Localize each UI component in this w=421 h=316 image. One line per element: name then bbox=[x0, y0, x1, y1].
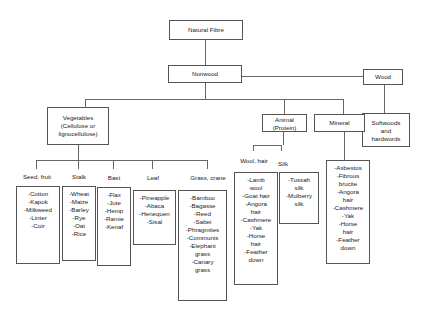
connector-to-seed bbox=[36, 160, 37, 169]
node-nonwood: Nonwood bbox=[168, 65, 242, 83]
connector-vegetables-branch bbox=[36, 160, 208, 161]
list-bast: -Flax -Jute -Hemp -Ramie -Kenaf bbox=[97, 187, 131, 266]
node-mineral: Mineral bbox=[314, 114, 365, 132]
node-nonwood-label: Nonwood bbox=[192, 70, 218, 78]
connector-mineral-down bbox=[344, 132, 345, 160]
list-item: -Pineapple bbox=[134, 194, 175, 202]
list-item: -Bamboo bbox=[179, 194, 226, 202]
connector-nonwood-down bbox=[205, 83, 206, 99]
connector-to-vegetables bbox=[85, 99, 86, 107]
list-seed-fruit: -Cotton -Kapok -Milkweed -Linter -Coir bbox=[16, 186, 60, 264]
list-item: -Milkweed bbox=[17, 206, 59, 214]
softwoods-line: hardwords bbox=[363, 135, 409, 143]
list-item: -Phragmites bbox=[179, 226, 226, 234]
list-item: -Feather bbox=[327, 236, 369, 244]
animal-line: (Protein) bbox=[263, 124, 306, 132]
label-wool-hair: Wool, hair bbox=[234, 157, 274, 165]
list-item: -Ramie bbox=[98, 215, 130, 223]
node-mineral-label: Mineral bbox=[329, 119, 349, 127]
list-item: -Oat bbox=[63, 222, 95, 230]
list-leaf: -Pineapple -Abaca -Henequen -Sisal bbox=[133, 190, 176, 245]
label-grass-crane: Grass, crane bbox=[182, 174, 234, 182]
list-item: -Tussah bbox=[280, 176, 318, 184]
list-item: -Yak bbox=[235, 224, 277, 232]
animal-line: Animal bbox=[263, 116, 306, 124]
list-stalk: -Wheat -Maize -Barley -Rye -Oat -Rice bbox=[62, 186, 96, 261]
list-item: -Rice bbox=[63, 230, 95, 238]
list-mineral: -Asbestos -Fibrous brucite -Angora hair … bbox=[326, 160, 370, 264]
label-stalk: Stalk bbox=[62, 173, 96, 181]
softwoods-line: and bbox=[363, 127, 409, 135]
list-item: -Angora bbox=[235, 200, 277, 208]
connector-to-grass bbox=[207, 160, 208, 169]
list-item: hair bbox=[235, 240, 277, 248]
list-item: grass bbox=[179, 250, 226, 258]
list-item: -Lamb bbox=[235, 176, 277, 184]
list-item: down bbox=[327, 244, 369, 252]
list-item: -Canary bbox=[179, 258, 226, 266]
node-wood-label: Wood bbox=[375, 73, 391, 81]
connector-nonwood-wood bbox=[242, 76, 363, 77]
label-silk: Silk bbox=[276, 160, 290, 168]
list-item: brucite bbox=[327, 180, 369, 188]
list-item: -Kapok bbox=[17, 198, 59, 206]
node-vegetables: Vegetables (Cellulose or lignocellulose) bbox=[47, 107, 109, 145]
list-item: -Cashmere bbox=[235, 216, 277, 224]
list-item: -Henequen bbox=[134, 210, 175, 218]
list-item: -Sabei bbox=[179, 218, 226, 226]
label-leaf: Leaf bbox=[136, 174, 170, 182]
list-item: -Angora bbox=[327, 188, 369, 196]
list-item: -Reed bbox=[179, 210, 226, 218]
label-bast: Bast bbox=[98, 174, 130, 182]
list-item: -Abaca bbox=[134, 202, 175, 210]
node-natural-fibre-label: Natural Fibre bbox=[188, 26, 224, 34]
vegetables-line: (Cellulose or bbox=[48, 122, 108, 130]
connector-wood-softwoods bbox=[384, 85, 385, 113]
list-item: -Goat hair bbox=[235, 192, 277, 200]
list-item: silk bbox=[280, 184, 318, 192]
list-wool-hair: -Lamb wool -Goat hair -Angora hair -Cash… bbox=[234, 172, 278, 285]
connector-animal-down bbox=[283, 132, 284, 145]
list-item: -Coir bbox=[17, 222, 59, 230]
connector-nonwood-branch bbox=[85, 99, 344, 100]
label-seed-fruit: Seed, fruit bbox=[14, 173, 60, 181]
node-softwoods: Softwoods and hardwords bbox=[362, 113, 410, 147]
list-item: down bbox=[235, 256, 277, 264]
vegetables-line: lignocellulose) bbox=[48, 130, 108, 138]
connector-to-wool bbox=[253, 145, 254, 151]
softwoods-line: Softwoods bbox=[363, 119, 409, 127]
list-item: -Horse bbox=[327, 220, 369, 228]
list-silk: -Tussah silk -Mulberry silk bbox=[279, 172, 319, 224]
list-item: -Kenaf bbox=[98, 223, 130, 231]
connector-animal-branch bbox=[253, 145, 281, 146]
list-item: -Barley bbox=[63, 206, 95, 214]
list-item: -Yak bbox=[327, 212, 369, 220]
connector-to-leaf bbox=[152, 160, 153, 169]
list-item: -Elephant bbox=[179, 242, 226, 250]
list-item: -Rye bbox=[63, 214, 95, 222]
list-item: hair bbox=[235, 208, 277, 216]
list-item: -Mulberry bbox=[280, 192, 318, 200]
connector-root-nonwood bbox=[205, 40, 206, 65]
list-item: -Sisal bbox=[134, 218, 175, 226]
connector-to-silk bbox=[281, 145, 282, 151]
list-item: -Communis bbox=[179, 234, 226, 242]
connector-vegetables-down bbox=[78, 145, 79, 161]
node-wood: Wood bbox=[363, 69, 403, 85]
connector-to-bast bbox=[113, 160, 114, 169]
list-item: hair bbox=[327, 196, 369, 204]
list-item: -Hemp bbox=[98, 207, 130, 215]
list-item: hair bbox=[327, 228, 369, 236]
list-item: grass bbox=[179, 266, 226, 274]
connector-to-stalk bbox=[78, 160, 79, 169]
list-item: -Wheat bbox=[63, 190, 95, 198]
list-item: -Feather bbox=[235, 248, 277, 256]
list-item: -Cashmere bbox=[327, 204, 369, 212]
list-item: -Horse bbox=[235, 232, 277, 240]
list-item: -Linter bbox=[17, 214, 59, 222]
list-item: -Fibrous bbox=[327, 172, 369, 180]
list-item: -Asbestos bbox=[327, 164, 369, 172]
list-item: -Jute bbox=[98, 199, 130, 207]
list-item: -Bagasse bbox=[179, 202, 226, 210]
connector-to-mineral bbox=[343, 100, 344, 114]
